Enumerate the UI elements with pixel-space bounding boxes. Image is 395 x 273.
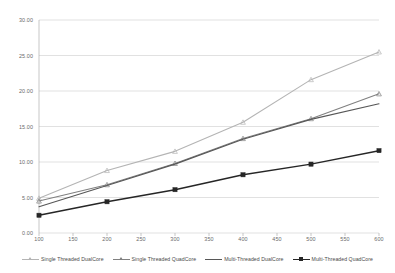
y-tick-label: 10.00 [19,159,33,165]
series-1 [37,91,382,203]
legend-label: Multi-Threaded QuadCore [312,256,373,262]
x-tick-label: 150 [68,236,77,242]
series-layer [39,20,379,233]
y-tick-label: 15.00 [19,124,33,130]
x-tick-label: 350 [204,236,213,242]
legend-item[interactable]: Single Threaded DualCore [22,256,104,263]
x-tick-label: 550 [340,236,349,242]
x-tick-label: 100 [34,236,43,242]
x-tick-label: 400 [238,236,247,242]
legend-label: Multi-Threaded DualCore [224,256,283,262]
line-chart: 0.005.0010.0015.0020.0025.0030.00 100150… [0,0,395,273]
y-tick-label: 30.00 [19,17,33,23]
x-tick-label: 300 [170,236,179,242]
legend-swatch-icon [293,256,310,263]
plot-area [39,20,379,233]
legend-swatch-icon [205,256,222,263]
series-2 [39,104,379,207]
legend-swatch-icon [22,256,39,263]
x-tick-label: 600 [374,236,383,242]
series-0 [37,50,382,201]
y-axis: 0.005.0010.0015.0020.0025.0030.00 [0,0,36,253]
x-axis: 100150200250300350400450500550600 [39,236,379,248]
y-tick-label: 5.00 [22,195,33,201]
legend-item[interactable]: Multi-Threaded QuadCore [293,256,373,263]
legend-swatch-icon [113,256,130,263]
legend-item[interactable]: Multi-Threaded DualCore [205,256,283,263]
y-tick-label: 20.00 [19,88,33,94]
x-tick-label: 500 [306,236,315,242]
y-tick-label: 25.00 [19,53,33,59]
legend-label: Single Threaded QuadCore [132,256,197,262]
chart-legend: Single Threaded DualCoreSingle Threaded … [0,252,395,266]
y-tick-label: 0.00 [22,230,33,236]
x-tick-label: 450 [272,236,281,242]
x-tick-label: 200 [102,236,111,242]
series-3 [37,149,381,218]
x-tick-label: 250 [136,236,145,242]
legend-item[interactable]: Single Threaded QuadCore [113,256,197,263]
legend-label: Single Threaded DualCore [41,256,104,262]
